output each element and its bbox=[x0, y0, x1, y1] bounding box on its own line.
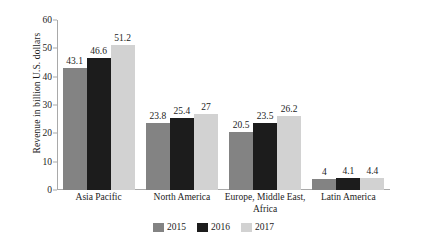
bar[interactable] bbox=[111, 45, 135, 190]
y-axis-tick-label: 40 bbox=[11, 72, 57, 82]
category-label-line: Asia Pacific bbox=[76, 192, 122, 202]
category-label-line: Europe, Middle East, bbox=[225, 192, 306, 202]
bar[interactable] bbox=[194, 114, 218, 191]
bar-slot: 4.4 bbox=[360, 20, 384, 190]
bar[interactable] bbox=[360, 178, 384, 190]
category-label-line: North America bbox=[154, 192, 211, 202]
bar-chart: Revenue in billion U.S. dollars 01020304… bbox=[0, 0, 427, 243]
bar-slot: 23.5 bbox=[253, 20, 277, 190]
bar-group: 43.146.651.2 bbox=[57, 20, 140, 190]
bar-slot: 25.4 bbox=[170, 20, 194, 190]
category-label: Latin America bbox=[307, 192, 390, 215]
bar-value-label: 43.1 bbox=[66, 56, 83, 67]
legend-swatch-icon bbox=[197, 223, 208, 232]
legend-label: 2017 bbox=[255, 222, 274, 233]
category-label-line: Latin America bbox=[321, 192, 376, 202]
y-axis-tick-label: 20 bbox=[11, 128, 57, 138]
category-labels: Asia PacificNorth AmericaEurope, Middle … bbox=[57, 192, 390, 215]
bar-slot: 43.1 bbox=[63, 20, 87, 190]
y-axis-ticks: 0102030405060 bbox=[0, 20, 57, 190]
bar-value-label: 4.1 bbox=[342, 166, 354, 177]
bar-value-label: 25.4 bbox=[174, 106, 191, 117]
legend-swatch-icon bbox=[153, 223, 164, 232]
bar[interactable] bbox=[312, 179, 336, 190]
bar-value-label: 46.6 bbox=[90, 46, 107, 57]
bar-value-label: 23.5 bbox=[257, 111, 274, 122]
legend-label: 2016 bbox=[211, 222, 230, 233]
bar-group-bars: 43.146.651.2 bbox=[57, 20, 140, 190]
bar-group-bars: 23.825.427 bbox=[140, 20, 223, 190]
bar[interactable] bbox=[146, 123, 170, 190]
bar-group-bars: 20.523.526.2 bbox=[224, 20, 307, 190]
bar-value-label: 23.8 bbox=[150, 111, 167, 122]
bar-value-label: 51.2 bbox=[114, 33, 131, 44]
category-label: North America bbox=[140, 192, 223, 215]
bar-value-label: 20.5 bbox=[233, 120, 250, 131]
bar[interactable] bbox=[87, 58, 111, 190]
bar-slot: 27 bbox=[194, 20, 218, 190]
legend-swatch-icon bbox=[241, 223, 252, 232]
bar-group: 44.14.4 bbox=[307, 20, 390, 190]
bar-value-label: 26.2 bbox=[281, 104, 298, 115]
bar-group: 23.825.427 bbox=[140, 20, 223, 190]
bar-group-bars: 44.14.4 bbox=[307, 20, 390, 190]
y-axis-tick-label: 60 bbox=[11, 15, 57, 25]
category-label: Asia Pacific bbox=[57, 192, 140, 215]
bar-slot: 26.2 bbox=[277, 20, 301, 190]
bar[interactable] bbox=[336, 178, 360, 190]
bar-groups: 43.146.651.223.825.42720.523.526.244.14.… bbox=[57, 20, 390, 190]
bar[interactable] bbox=[277, 116, 301, 190]
legend-item[interactable]: 2016 bbox=[197, 222, 230, 233]
y-axis-tick-label: 0 bbox=[11, 185, 57, 195]
bar[interactable] bbox=[63, 68, 87, 190]
bar-slot: 51.2 bbox=[111, 20, 135, 190]
chart-legend: 201520162017 bbox=[0, 222, 427, 233]
legend-item[interactable]: 2017 bbox=[241, 222, 274, 233]
bar-value-label: 4 bbox=[322, 167, 327, 178]
bar-slot: 20.5 bbox=[229, 20, 253, 190]
bar-slot: 4.1 bbox=[336, 20, 360, 190]
y-axis-tick-label: 10 bbox=[11, 157, 57, 167]
bar[interactable] bbox=[253, 123, 277, 190]
bar-slot: 46.6 bbox=[87, 20, 111, 190]
bar-slot: 23.8 bbox=[146, 20, 170, 190]
legend-item[interactable]: 2015 bbox=[153, 222, 186, 233]
bar-group: 20.523.526.2 bbox=[224, 20, 307, 190]
bar[interactable] bbox=[170, 118, 194, 190]
bar-slot: 4 bbox=[312, 20, 336, 190]
y-axis-tick-label: 30 bbox=[11, 100, 57, 110]
bar-value-label: 27 bbox=[201, 102, 211, 113]
category-label: Europe, Middle East,Africa bbox=[224, 192, 307, 215]
category-label-line: Africa bbox=[224, 204, 307, 216]
y-axis-tick-label: 50 bbox=[11, 43, 57, 53]
bar[interactable] bbox=[229, 132, 253, 190]
bar-value-label: 4.4 bbox=[366, 166, 378, 177]
legend-label: 2015 bbox=[167, 222, 186, 233]
